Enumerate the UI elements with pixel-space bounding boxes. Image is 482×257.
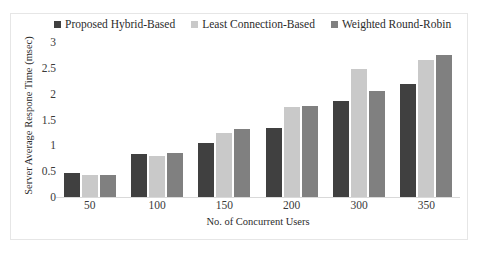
legend-entry[interactable]: Proposed Hybrid-Based xyxy=(54,18,175,30)
y-axis-tick-label: 1.5 xyxy=(22,114,56,126)
bar[interactable] xyxy=(198,143,214,198)
bar[interactable] xyxy=(436,55,452,198)
bar[interactable] xyxy=(149,156,165,198)
bar[interactable] xyxy=(82,175,98,198)
bar[interactable] xyxy=(216,133,232,198)
x-axis-tick-label: 200 xyxy=(262,199,322,211)
bar[interactable] xyxy=(100,175,116,198)
x-axis-title: No. of Concurrent Users xyxy=(56,216,460,227)
x-axis-line xyxy=(56,197,460,198)
legend-label: Proposed Hybrid-Based xyxy=(65,18,175,30)
bar-group xyxy=(123,42,190,198)
y-axis-tick-label: 3 xyxy=(22,36,56,48)
bar[interactable] xyxy=(333,101,349,198)
bar-group xyxy=(191,42,258,198)
x-axis-tick-label: 300 xyxy=(329,199,389,211)
bar-group xyxy=(325,42,392,198)
y-axis-tick-label: 1 xyxy=(22,139,56,151)
chart-figure: Proposed Hybrid-BasedLeast Connection-Ba… xyxy=(0,0,482,257)
x-axis-tick-label: 350 xyxy=(396,199,456,211)
bar[interactable] xyxy=(418,60,434,198)
y-axis-tick-label: 2 xyxy=(22,88,56,100)
bar[interactable] xyxy=(284,107,300,198)
bar-group xyxy=(56,42,123,198)
bar[interactable] xyxy=(167,153,183,198)
y-axis-tick-label: 0.5 xyxy=(22,165,56,177)
x-axis-tick-label: 150 xyxy=(194,199,254,211)
legend-entry[interactable]: Least Connection-Based xyxy=(191,18,315,30)
y-axis-tick-label: 0 xyxy=(22,191,56,203)
chart-legend: Proposed Hybrid-BasedLeast Connection-Ba… xyxy=(54,16,464,32)
legend-entry[interactable]: Weighted Round-Robin xyxy=(331,18,451,30)
y-axis-tick-label: 2.5 xyxy=(22,62,56,74)
bar-group xyxy=(393,42,460,198)
bar[interactable] xyxy=(234,129,250,198)
legend-label: Weighted Round-Robin xyxy=(342,18,451,30)
x-axis-ticks: 50100150200300350 xyxy=(56,199,460,215)
bar[interactable] xyxy=(64,173,80,198)
y-axis-ticks: 00.511.522.53 xyxy=(16,0,56,257)
x-axis-tick-label: 50 xyxy=(60,199,120,211)
bar[interactable] xyxy=(400,84,416,198)
legend-label: Least Connection-Based xyxy=(202,18,315,30)
bar[interactable] xyxy=(369,91,385,198)
bar[interactable] xyxy=(351,69,367,198)
legend-swatch-icon xyxy=(191,21,198,28)
bar[interactable] xyxy=(266,128,282,198)
plot-area xyxy=(56,42,460,198)
x-axis-tick-label: 100 xyxy=(127,199,187,211)
legend-swatch-icon xyxy=(331,21,338,28)
bar[interactable] xyxy=(302,106,318,198)
bar-group xyxy=(258,42,325,198)
bar[interactable] xyxy=(131,154,147,198)
